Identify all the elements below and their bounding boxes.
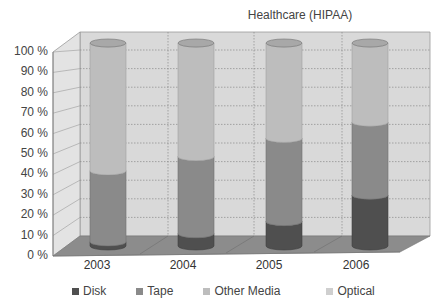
y-tick-label: 40 % xyxy=(0,166,48,180)
bar-segment-tape xyxy=(178,157,214,238)
y-tick-label: 70 % xyxy=(0,105,48,119)
legend-swatch-optical xyxy=(326,288,333,295)
bar-segment-other-media xyxy=(90,43,126,175)
bar-segment-other-media xyxy=(266,43,302,142)
bar-top-cap xyxy=(178,39,214,47)
bar-2003 xyxy=(90,39,126,250)
x-tick-label: 2005 xyxy=(239,258,299,272)
bar-segment-other-media xyxy=(352,43,388,126)
y-tick-label: 20 % xyxy=(0,207,48,221)
legend-label: Optical xyxy=(337,284,374,298)
bar-2006 xyxy=(352,39,388,250)
legend: Disk Tape Other Media Optical xyxy=(72,284,405,298)
x-tick-label: 2003 xyxy=(67,258,127,272)
legend-label: Other Media xyxy=(214,284,280,298)
bar-top-cap xyxy=(266,39,302,47)
bar-2005 xyxy=(266,39,302,250)
bar-top-cap xyxy=(90,39,126,47)
y-tick-label: 80 % xyxy=(0,85,48,99)
x-tick-label: 2006 xyxy=(326,258,386,272)
bar-segment-disk xyxy=(352,195,388,250)
y-tick-label: 60 % xyxy=(0,126,48,140)
legend-swatch-tape xyxy=(136,288,143,295)
legend-item-disk: Disk xyxy=(72,284,106,298)
bar-segment-tape xyxy=(266,138,302,225)
legend-swatch-disk xyxy=(72,288,79,295)
bar-segment-tape xyxy=(352,122,388,199)
y-tick-label: 30 % xyxy=(0,187,48,201)
legend-label: Disk xyxy=(83,284,106,298)
legend-item-other-media: Other Media xyxy=(203,284,280,298)
y-tick-label: 0 % xyxy=(0,248,48,262)
legend-swatch-other-media xyxy=(203,288,210,295)
x-tick-label: 2004 xyxy=(153,258,213,272)
bar-top-cap xyxy=(352,39,388,47)
bar-2004 xyxy=(178,39,214,250)
bar-segment-tape xyxy=(90,171,126,246)
y-tick-label: 100 % xyxy=(0,44,48,58)
side-wall xyxy=(53,32,80,256)
legend-item-tape: Tape xyxy=(136,284,173,298)
legend-item-optical: Optical xyxy=(326,284,374,298)
legend-label: Tape xyxy=(147,284,173,298)
y-tick-label: 10 % xyxy=(0,228,48,242)
y-tick-label: 50 % xyxy=(0,146,48,160)
y-tick-label: 90 % xyxy=(0,64,48,78)
bar-segment-other-media xyxy=(178,43,214,161)
